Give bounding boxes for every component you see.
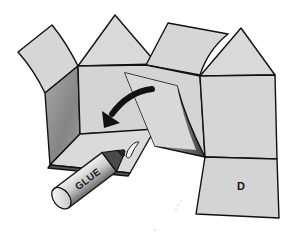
- left-triangle-flap: [78, 15, 157, 66]
- panel-d-label: D: [237, 180, 245, 192]
- right-wall: [200, 75, 277, 159]
- box-net-diagram: GLUE D: [0, 0, 290, 234]
- scan-specks: [154, 201, 181, 231]
